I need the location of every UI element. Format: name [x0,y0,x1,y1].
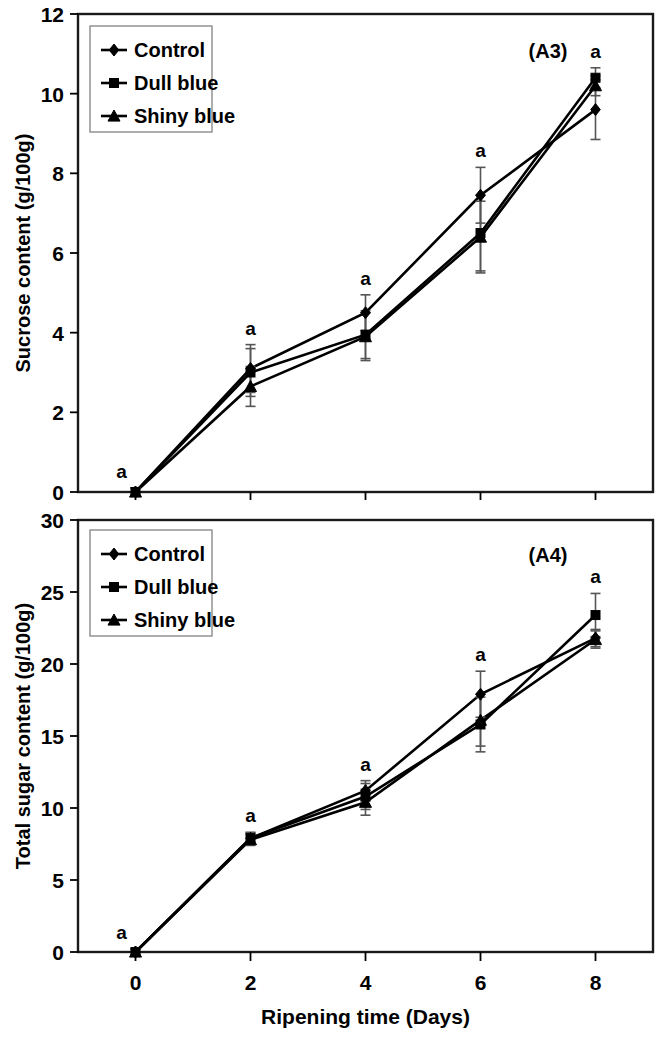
y-tick-label: 4 [52,322,64,345]
chart-panel-a3: 024681012Sucrose content (g/100g)(A3)aaa… [0,0,661,500]
square-marker [110,583,119,592]
y-tick-label: 6 [52,242,64,265]
significance-letter: a [475,644,486,665]
x-tick-label: 4 [360,971,372,994]
data-series-group [130,593,602,958]
x-tick-label: 0 [130,971,142,994]
significance-letter: a [116,461,127,482]
significance-letter: a [116,922,127,943]
series-line-shiny-blue [136,86,596,492]
significance-letter: a [245,318,256,339]
significance-letter: a [360,268,371,289]
y-tick-label: 10 [41,83,64,106]
y-tick-label: 15 [41,725,65,748]
y-tick-label: 2 [52,401,64,424]
diamond-marker [591,104,601,116]
legend: ControlDull blueShiny blue [90,530,235,636]
square-marker [110,79,119,88]
legend: ControlDull blueShiny blue [90,26,235,132]
legend-label: Control [134,39,205,61]
panel-tag: (A4) [529,544,568,566]
significance-letter: a [590,566,601,587]
x-axis-title: Ripening time (Days) [261,1005,470,1028]
chart-svg-a4: 05101520253002468Ripening time (Days)Tot… [0,500,661,1044]
significance-letter: a [360,754,371,775]
y-tick-label: 0 [52,481,64,500]
chart-panel-a4: 05101520253002468Ripening time (Days)Tot… [0,500,661,1044]
panel-tag: (A3) [529,40,568,62]
legend-label: Shiny blue [134,609,235,631]
significance-letter: a [590,41,601,62]
x-tick-label: 8 [590,971,602,994]
legend-label: Shiny blue [134,105,235,127]
y-tick-label: 8 [52,162,64,185]
y-tick-label: 12 [41,3,64,26]
significance-letter: a [245,805,256,826]
y-tick-label: 25 [41,581,65,604]
y-axis-title: Sucrose content (g/100g) [12,134,34,373]
square-marker [591,611,600,620]
legend-label: Dull blue [134,72,218,94]
significance-letter: a [475,140,486,161]
y-tick-label: 0 [52,941,64,964]
x-tick-label: 2 [245,971,257,994]
square-marker [246,368,255,377]
x-tick-label: 6 [475,971,487,994]
y-tick-label: 20 [41,653,64,676]
figure-sugar-content: 024681012Sucrose content (g/100g)(A3)aaa… [0,0,661,1044]
legend-label: Dull blue [134,576,218,598]
y-tick-label: 10 [41,797,64,820]
chart-svg-a3: 024681012Sucrose content (g/100g)(A3)aaa… [0,0,661,500]
y-axis-title: Total sugar content (g/100g) [12,603,34,869]
y-tick-label: 5 [52,869,64,892]
y-tick-label: 30 [41,509,64,532]
legend-label: Control [134,543,205,565]
